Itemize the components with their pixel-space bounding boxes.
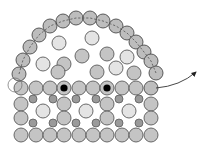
small-dark-atom <box>72 119 80 127</box>
interior-atom <box>127 66 141 80</box>
dopant-core <box>103 84 110 91</box>
lattice-atom <box>57 97 71 111</box>
interior-atom <box>51 65 65 79</box>
lattice-atom <box>43 81 57 95</box>
lattice-atom <box>57 111 71 125</box>
lattice-atom <box>144 128 158 142</box>
lattice-atom <box>14 128 28 142</box>
lattice-atom <box>129 81 143 95</box>
interior-atom <box>75 49 89 63</box>
lattice-atom <box>29 128 43 142</box>
small-dark-atom <box>135 119 143 127</box>
atomic-cluster-diagram <box>0 0 210 149</box>
small-dark-atom <box>49 95 57 103</box>
lattice-atom <box>115 81 129 95</box>
interior-atom <box>100 47 114 61</box>
interior-atom <box>36 57 50 71</box>
interior-atom <box>85 31 99 45</box>
small-dark-atom <box>49 119 57 127</box>
lattice-atom <box>14 111 28 125</box>
lattice-atom <box>86 81 100 95</box>
edge-atom <box>83 11 97 25</box>
edge-atom <box>16 53 30 67</box>
lattice-atom <box>14 97 28 111</box>
small-dark-atom <box>92 95 100 103</box>
interior-atom <box>90 65 104 79</box>
lattice-atom <box>29 81 43 95</box>
small-dark-atom <box>29 95 37 103</box>
small-dark-atom <box>92 119 100 127</box>
lattice-atom <box>86 128 100 142</box>
lattice-atom <box>129 128 143 142</box>
small-dark-atom <box>72 95 80 103</box>
lattice-atom <box>72 128 86 142</box>
interior-atom <box>109 61 123 75</box>
lattice-atom <box>144 111 158 125</box>
edge-atom <box>43 19 57 33</box>
lattice-atom <box>144 97 158 111</box>
lattice-atom <box>100 97 114 111</box>
small-dark-atom <box>115 95 123 103</box>
lattice-atom <box>72 81 86 95</box>
lattice-atom <box>115 128 129 142</box>
small-dark-atom <box>115 119 123 127</box>
lattice-atom <box>100 128 114 142</box>
light-interstitial-atom <box>79 104 93 118</box>
lattice-atom <box>57 128 71 142</box>
light-interstitial-atom <box>36 104 50 118</box>
small-dark-atom <box>29 119 37 127</box>
interior-atom <box>120 50 134 64</box>
interior-atom <box>52 36 66 50</box>
lattice-atom <box>144 81 158 95</box>
lattice-atom <box>43 128 57 142</box>
small-dark-atom <box>135 95 143 103</box>
lattice-atom <box>100 111 114 125</box>
light-interstitial-atom <box>122 104 136 118</box>
dopant-core <box>60 84 67 91</box>
lattice-atoms <box>14 81 158 142</box>
